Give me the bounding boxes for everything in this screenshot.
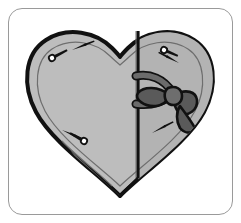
heart-body [27,18,238,208]
heart-diagram-svg [0,0,241,223]
figure-canvas [0,0,241,223]
bow-knot [165,87,182,105]
